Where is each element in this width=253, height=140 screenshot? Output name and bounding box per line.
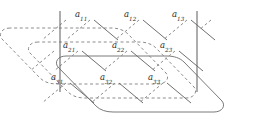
matrix-element-a12: a12: [124, 10, 137, 19]
matrix-element-a22: a22: [112, 41, 125, 50]
matrix-element-a32: a32: [100, 73, 113, 82]
matrix-lattice-figure: a11 a12 a13 a21 a22 a23 a31 a32 a33: [0, 0, 253, 140]
matrix-element-a31: a31: [51, 73, 64, 82]
matrix-element-a23: a23: [160, 41, 173, 50]
matrix-element-a13: a13: [172, 10, 185, 19]
vertical-lines: [60, 11, 197, 92]
matrix-element-a11: a11: [75, 10, 88, 19]
matrix-element-a21: a21: [63, 41, 76, 50]
lattice-solid-edges: [70, 20, 215, 103]
figure-canvas: [0, 0, 253, 140]
matrix-element-a33: a33: [148, 73, 161, 82]
